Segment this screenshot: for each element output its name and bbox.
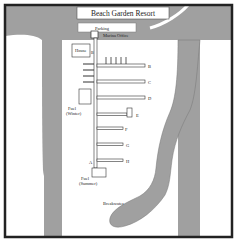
dock-c: [97, 80, 145, 83]
dock-d: [97, 96, 145, 99]
fuel-summer-label-2: (Summer): [79, 181, 98, 186]
marina-map: Beach Garden Resort Parking Marina Offic…: [0, 0, 237, 242]
fuel-summer-building: [92, 168, 106, 177]
fuel-winter-building: [79, 89, 91, 104]
breakwater-label: Breakwater: [103, 201, 124, 206]
dock-h: [97, 159, 123, 162]
dock-f: [97, 127, 123, 130]
fuel-winter-label-2: (Winter): [66, 111, 82, 116]
dock-e: [97, 113, 127, 116]
marina-office-building: [91, 31, 98, 38]
map-title: Beach Garden Resort: [91, 9, 156, 18]
main-walkway: [94, 38, 97, 168]
dock-e-end: [127, 108, 132, 117]
dock-label-e: E: [136, 113, 139, 118]
dock-g: [97, 143, 123, 146]
dock-label-b-top: B: [91, 50, 94, 55]
dock-b: [97, 64, 145, 67]
dock-label-c: C: [148, 80, 151, 85]
house-label: House: [75, 48, 87, 53]
parking-label: Parking: [95, 26, 110, 31]
dock-label-b: B: [148, 64, 151, 69]
left-shore: [5, 35, 44, 237]
marina-office-label: Marina Office: [103, 33, 129, 38]
right-shore: [200, 40, 232, 237]
